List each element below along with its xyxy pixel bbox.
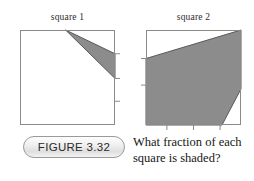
- figure-question-text: What fraction of each square is shaded?: [133, 134, 251, 166]
- square-2-shaded-region: [146, 30, 241, 125]
- figure-number-badge: FIGURE 3.32: [23, 136, 125, 158]
- square-2-diagram: [146, 30, 241, 125]
- square-2-svg: [146, 30, 241, 125]
- square-1-tick-marks: [115, 54, 120, 102]
- square-1-shaded-region: [66, 30, 115, 78]
- square-1-outline: [21, 31, 115, 125]
- square-2-label: square 2: [146, 12, 241, 23]
- figure-3-32: square 1 square 2 FIGURE 3.32 What fract…: [0, 0, 254, 181]
- square-1-diagram: [20, 30, 115, 125]
- square-1-label: square 1: [20, 12, 115, 23]
- square-1-svg: [20, 30, 115, 125]
- figure-number-label: FIGURE 3.32: [24, 137, 124, 157]
